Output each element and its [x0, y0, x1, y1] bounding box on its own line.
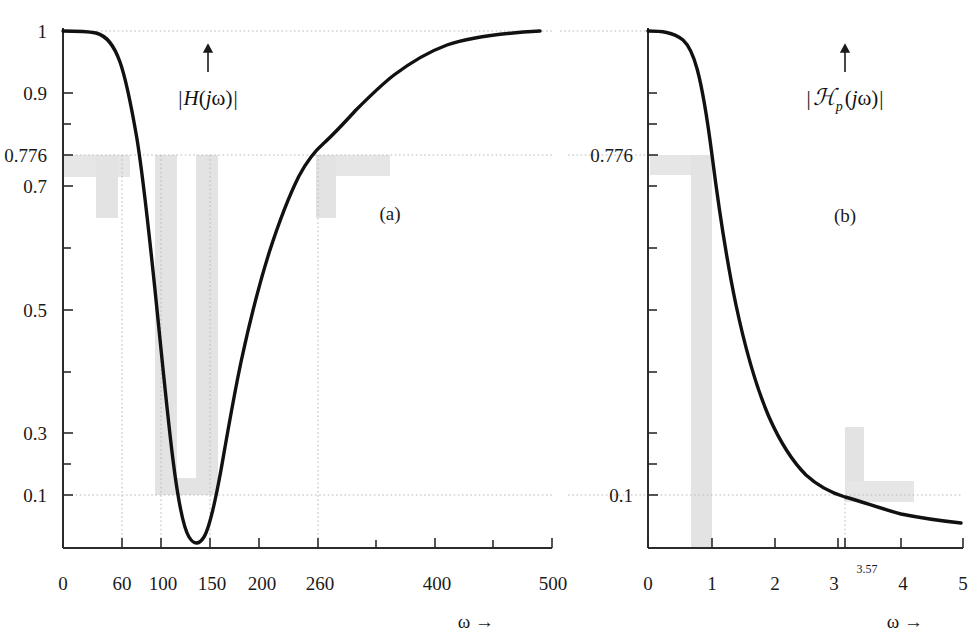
xtick-a-7: 500 — [539, 573, 568, 594]
xtick-a-5: 260 — [306, 573, 335, 594]
ytick-b-1: 0.1 — [609, 485, 633, 506]
ytick-b-0: 0.776 — [590, 145, 633, 166]
panel-a-curve-title: |H(jω)| — [178, 86, 237, 110]
xtick-a-1: 60 — [113, 573, 132, 594]
ytick-a-5: 0.3 — [23, 423, 47, 444]
ytick-a-1: 0.9 — [23, 83, 47, 104]
xtick-b-2: 2 — [770, 573, 780, 594]
highlight-b-pass-vertical — [691, 155, 712, 548]
figure-container: 1 0.9 0.776 0.7 0.5 0.3 0.1 0 60 100 150… — [0, 0, 977, 644]
xtick-a-4: 200 — [248, 573, 277, 594]
xtick-a-3: 150 — [198, 573, 227, 594]
highlight-a-right-vertical — [316, 155, 336, 218]
ytick-a-3: 0.7 — [23, 176, 47, 197]
xtick-a-2: 100 — [149, 573, 178, 594]
xtick-b-4: 4 — [898, 573, 908, 594]
panel-b-x-axis-label: ω → — [887, 611, 923, 632]
xtick-a-0: 0 — [58, 573, 68, 594]
xtick-b-3: 3 — [829, 573, 839, 594]
ytick-a-4: 0.5 — [23, 300, 47, 321]
ytick-a-2: 0.776 — [4, 145, 47, 166]
ytick-a-6: 0.1 — [23, 485, 47, 506]
xtick-b-special-357: 3.57 — [857, 562, 878, 576]
ytick-a-0: 1 — [38, 21, 48, 42]
panel-a-x-axis-label: ω → — [458, 611, 494, 632]
highlight-a-left-vertical — [96, 155, 118, 218]
xtick-b-0: 0 — [643, 573, 653, 594]
xtick-a-6: 400 — [423, 573, 452, 594]
xtick-b-5: 5 — [958, 573, 968, 594]
xtick-b-1: 1 — [707, 573, 717, 594]
highlight-a-mid-right-vertical — [196, 155, 218, 495]
plot-svg: 1 0.9 0.776 0.7 0.5 0.3 0.1 0 60 100 150… — [0, 0, 977, 644]
highlight-a-mid-bottom — [155, 478, 218, 495]
panel-a-id: (a) — [379, 203, 400, 225]
panel-b-curve-title: |ℋp(jω)| — [806, 85, 883, 114]
panel-b-id: (b) — [834, 205, 856, 227]
